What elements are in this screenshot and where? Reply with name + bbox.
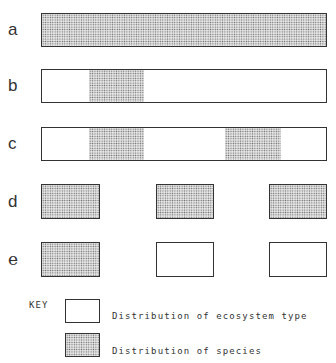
row-e-patch-3 (269, 242, 327, 277)
row-a-ecosystem-bar (41, 13, 327, 47)
row-label-b: b (8, 76, 22, 96)
row-c-species-segment-2 (225, 128, 281, 160)
row-c-ecosystem-bar (41, 127, 327, 161)
key-ecosystem-label: Distribution of ecosystem type (112, 311, 308, 321)
key-ecosystem-swatch (65, 299, 100, 323)
row-d-patch-2 (156, 184, 214, 219)
row-b-ecosystem-bar (41, 69, 327, 103)
row-label-d: d (8, 192, 22, 212)
row-d-patch-1 (41, 184, 100, 219)
row-d-patch-3 (269, 184, 327, 219)
row-e-patch-1 (41, 242, 100, 277)
key-species-swatch (65, 333, 100, 357)
row-label-c: c (8, 134, 22, 154)
row-e-patch-2 (156, 242, 214, 277)
key-title: KEY (29, 300, 49, 310)
row-label-e: e (8, 249, 22, 269)
row-b-species-segment (89, 70, 144, 102)
key-species-label: Distribution of species (112, 346, 262, 356)
row-c-species-segment-1 (89, 128, 144, 160)
row-label-a: a (8, 20, 22, 40)
